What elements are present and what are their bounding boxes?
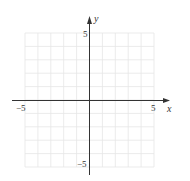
axes bbox=[12, 16, 170, 175]
x-tick-label-max: 5 bbox=[151, 104, 156, 113]
x-tick-label-min: −5 bbox=[16, 104, 26, 113]
y-axis-label: y bbox=[94, 14, 98, 24]
coordinate-plane bbox=[0, 0, 190, 181]
y-tick-label-min: −5 bbox=[77, 160, 87, 169]
x-axis-label: x bbox=[167, 104, 171, 114]
y-axis-arrow-icon bbox=[87, 16, 92, 24]
y-tick-label-max: 5 bbox=[83, 30, 88, 39]
